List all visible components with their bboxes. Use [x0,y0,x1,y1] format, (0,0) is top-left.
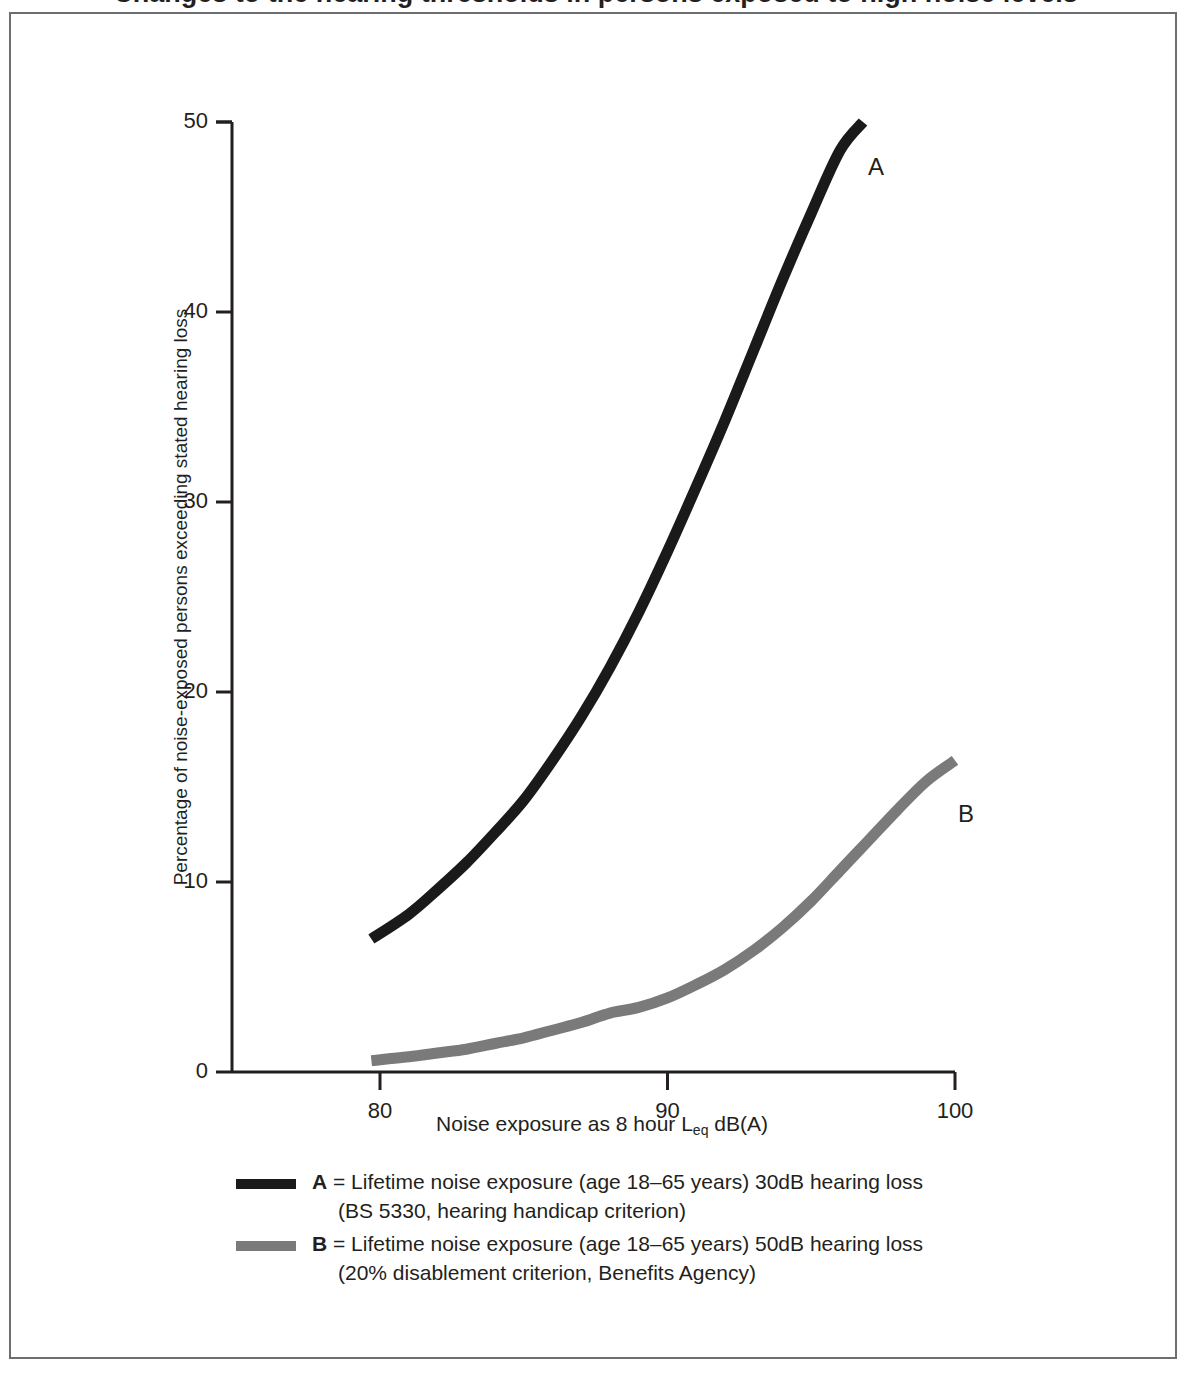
legend-swatch-b [236,1241,296,1251]
legend-text-b: B = Lifetime noise exposure (age 18–65 y… [312,1230,923,1288]
legend-line2-b: (20% disablement criterion, Benefits Age… [338,1259,923,1288]
legend-text-a: A = Lifetime noise exposure (age 18–65 y… [312,1168,923,1226]
legend-equals-a: = [327,1170,351,1193]
x-axis-title-tail: dB(A) [708,1112,768,1135]
legend-item-a: A = Lifetime noise exposure (age 18–65 y… [236,1168,1036,1226]
curve-label-a: A [868,155,884,179]
legend-line1-b: Lifetime noise exposure (age 18–65 years… [351,1232,923,1255]
legend-equals-b: = [327,1232,351,1255]
legend-line1-a: Lifetime noise exposure (age 18–65 years… [351,1170,923,1193]
y-tick-label: 40 [148,300,208,322]
legend-key-a: A [312,1170,327,1193]
x-axis-title: Noise exposure as 8 hour Leq dB(A) [232,1112,972,1136]
legend-swatch-a [236,1179,296,1189]
y-axis-title-text: Percentage of noise-exposed persons exce… [170,122,192,1072]
legend-item-b: B = Lifetime noise exposure (age 18–65 y… [236,1230,1036,1288]
x-axis-title-subscript: eq [693,1122,709,1138]
legend-key-b: B [312,1232,327,1255]
legend: A = Lifetime noise exposure (age 18–65 y… [236,1168,1036,1292]
y-tick-label: 20 [148,680,208,702]
y-tick-label: 0 [148,1060,208,1082]
curve-label-b: B [958,802,974,826]
y-tick-label: 10 [148,870,208,892]
y-tick-label: 50 [148,110,208,132]
y-tick-label: 30 [148,490,208,512]
legend-line2-a: (BS 5330, hearing handicap criterion) [338,1197,923,1226]
figure-title: Changes to the hearing thresholds in per… [0,0,1191,9]
x-axis-title-main: Noise exposure as 8 hour L [436,1112,693,1135]
